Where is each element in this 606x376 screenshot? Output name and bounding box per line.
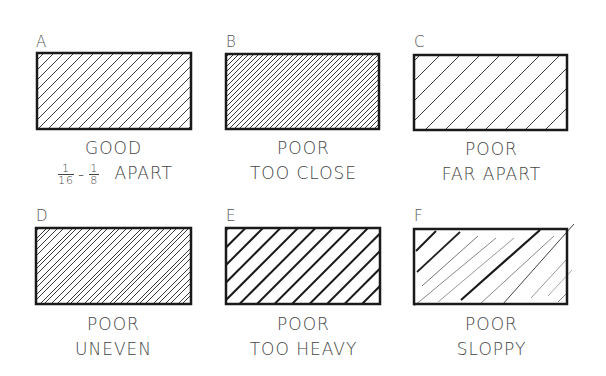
caption-sloppy: SLOPPY bbox=[414, 337, 569, 362]
caption-far-apart: FAR APART bbox=[404, 162, 579, 187]
caption-too-heavy: TOO HEAVY bbox=[216, 337, 391, 362]
hatch-sample-far-apart bbox=[412, 53, 572, 135]
panel-label-d: D bbox=[36, 207, 48, 225]
caption-uneven: UNEVEN bbox=[36, 337, 191, 362]
hatch-sample-sloppy bbox=[408, 222, 576, 312]
caption-poor-d: POOR bbox=[36, 312, 191, 337]
caption-good: GOOD bbox=[36, 136, 191, 161]
panel-label-c: C bbox=[414, 33, 424, 51]
hatch-sample-good bbox=[34, 51, 194, 133]
panel-label-b: B bbox=[226, 33, 236, 51]
fraction-1-16: 116 bbox=[58, 163, 74, 186]
hatch-sample-too-close bbox=[224, 52, 384, 134]
hatch-sample-too-heavy bbox=[224, 226, 384, 308]
caption-apart: APART bbox=[115, 163, 173, 183]
caption-poor-b: POOR bbox=[226, 136, 381, 161]
range-dash: - bbox=[78, 162, 85, 187]
caption-too-close: TOO CLOSE bbox=[216, 161, 391, 186]
caption-poor-c: POOR bbox=[414, 137, 569, 162]
panel-label-e: E bbox=[226, 207, 235, 225]
caption-apart-range: 116-18 APART bbox=[30, 161, 200, 187]
caption-poor-e: POOR bbox=[226, 312, 381, 337]
panel-label-a: A bbox=[36, 33, 46, 51]
hatch-sample-uneven bbox=[34, 226, 194, 308]
caption-poor-f: POOR bbox=[414, 312, 569, 337]
fraction-1-8: 18 bbox=[89, 163, 99, 186]
